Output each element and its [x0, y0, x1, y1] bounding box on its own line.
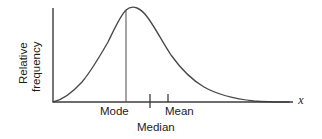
mean-label: Mean [165, 105, 194, 117]
x-axis-label: x [297, 93, 304, 107]
distribution-curve [53, 7, 289, 102]
skewed-distribution-figure: Relative frequency x Mode Mean Median [0, 0, 322, 139]
median-label: Median [137, 121, 175, 133]
y-axis-label-line1: Relative [17, 42, 29, 84]
mode-label: Mode [100, 105, 129, 117]
y-axis-label-line2: frequency [30, 41, 42, 92]
